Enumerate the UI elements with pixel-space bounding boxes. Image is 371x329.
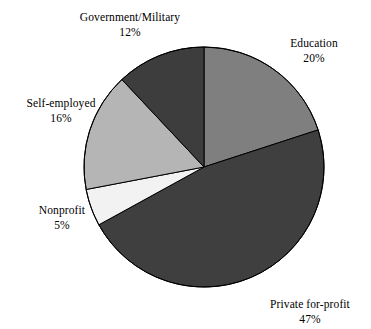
pie-label-government-military-name: Government/Military <box>60 10 200 25</box>
pie-label-education-name: Education <box>266 36 362 51</box>
pie-label-nonprofit-percent: 5% <box>14 218 110 233</box>
pie-label-nonprofit: Nonprofit 5% <box>14 203 110 232</box>
pie-label-nonprofit-name: Nonprofit <box>14 203 110 218</box>
pie-label-private-for-profit: Private for-profit 47% <box>254 297 366 326</box>
pie-label-private-for-profit-name: Private for-profit <box>254 297 366 312</box>
pie-label-self-employed-percent: 16% <box>6 111 116 126</box>
pie-label-education: Education 20% <box>266 36 362 65</box>
pie-label-government-military: Government/Military 12% <box>60 10 200 39</box>
pie-label-self-employed-name: Self-employed <box>6 96 116 111</box>
pie-label-self-employed: Self-employed 16% <box>6 96 116 125</box>
pie-label-education-percent: 20% <box>266 51 362 66</box>
pie-label-government-military-percent: 12% <box>60 25 200 40</box>
pie-label-private-for-profit-percent: 47% <box>254 312 366 327</box>
pie-chart-figure: Government/Military 12% Education 20% Se… <box>0 0 371 329</box>
pie-slices-group <box>84 47 324 287</box>
